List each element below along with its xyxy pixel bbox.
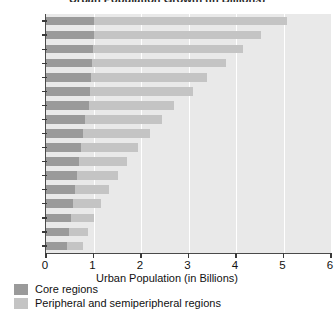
x-axis-tick [235, 253, 236, 258]
bar-row[interactable] [46, 31, 331, 40]
bar-segment-core [46, 129, 83, 138]
bar-segment-peripheral [81, 143, 138, 152]
bar-segment-core [46, 185, 75, 194]
x-axis-tick [93, 253, 94, 258]
bar-segment-core [46, 59, 92, 68]
bar-row[interactable] [46, 214, 331, 223]
bar-segment-core [46, 228, 69, 237]
y-axis-tick [42, 34, 47, 35]
x-axis-tick [45, 253, 46, 258]
bar-segment-peripheral [77, 171, 118, 180]
y-axis-tick [42, 175, 47, 176]
bar-segment-peripheral [91, 73, 208, 82]
bar-segment-core [46, 115, 85, 124]
x-axis-tick [283, 253, 284, 258]
x-axis-label: 1 [81, 259, 105, 271]
bar-segment-peripheral [67, 242, 83, 251]
bar-segment-peripheral [83, 129, 150, 138]
legend-label-core: Core regions [35, 283, 98, 295]
bar-segment-core [46, 17, 94, 26]
y-axis-tick [42, 63, 47, 64]
bar-row[interactable] [46, 17, 331, 26]
legend-swatch-peripheral-icon [14, 298, 28, 309]
bar-segment-peripheral [90, 87, 194, 96]
bar-segment-core [46, 242, 67, 251]
bar-row[interactable] [46, 101, 331, 110]
bar-segment-peripheral [69, 228, 88, 237]
bar-row[interactable] [46, 87, 331, 96]
bar-row[interactable] [46, 115, 331, 124]
x-axis-label: 0 [33, 259, 57, 271]
bar-segment-peripheral [79, 157, 127, 166]
legend: Core regions Peripheral and semiperipher… [14, 283, 334, 311]
gridline [331, 14, 332, 253]
bar-segment-peripheral [93, 45, 244, 54]
y-axis-tick [42, 105, 47, 106]
bar-segment-peripheral [92, 59, 226, 68]
y-axis-tick [42, 119, 47, 120]
legend-label-peripheral: Peripheral and semiperipheral regions [35, 297, 221, 309]
bar-segment-core [46, 199, 73, 208]
plot-area [45, 14, 331, 254]
x-axis-label: 6 [318, 259, 334, 271]
y-axis-tick [42, 189, 47, 190]
y-axis-tick [42, 91, 47, 92]
y-axis-tick [42, 49, 47, 50]
y-axis-tick [42, 77, 47, 78]
bar-row[interactable] [46, 228, 331, 237]
x-axis-label: 2 [128, 259, 152, 271]
bar-segment-peripheral [75, 185, 109, 194]
bar-row[interactable] [46, 73, 331, 82]
y-axis-tick [42, 133, 47, 134]
y-axis-tick [42, 20, 47, 21]
bar-segment-peripheral [85, 115, 162, 124]
x-axis-label: 4 [223, 259, 247, 271]
bar-row[interactable] [46, 185, 331, 194]
bar-segment-core [46, 101, 89, 110]
chart-title: Urban Population Growth (in Billions) [0, 0, 334, 2]
bar-row[interactable] [46, 59, 331, 68]
bar-segment-core [46, 31, 94, 40]
y-axis-tick [42, 203, 47, 204]
bar-segment-core [46, 87, 90, 96]
bar-rows [46, 14, 331, 253]
bar-segment-peripheral [94, 31, 262, 40]
bar-segment-core [46, 157, 79, 166]
y-axis-tick [42, 245, 47, 246]
legend-item-peripheral[interactable]: Peripheral and semiperipheral regions [14, 297, 334, 309]
y-axis-tick [42, 161, 47, 162]
bar-row[interactable] [46, 199, 331, 208]
bar-row[interactable] [46, 157, 331, 166]
bar-row[interactable] [46, 129, 331, 138]
bar-segment-core [46, 45, 93, 54]
legend-item-core[interactable]: Core regions [14, 283, 334, 295]
bar-segment-core [46, 171, 77, 180]
y-axis-tick [42, 147, 47, 148]
bar-segment-peripheral [89, 101, 175, 110]
y-axis-tick [42, 231, 47, 232]
bar-segment-core [46, 214, 71, 223]
x-axis-tick [140, 253, 141, 258]
bar-segment-peripheral [94, 17, 287, 26]
y-axis-tick [42, 217, 47, 218]
x-axis-label: 5 [271, 259, 295, 271]
bar-row[interactable] [46, 143, 331, 152]
bar-row[interactable] [46, 171, 331, 180]
bar-row[interactable] [46, 242, 331, 251]
x-axis-tick [330, 253, 331, 258]
legend-swatch-core-icon [14, 284, 28, 295]
bar-segment-peripheral [73, 199, 102, 208]
bar-segment-peripheral [71, 214, 94, 223]
bar-segment-core [46, 143, 81, 152]
x-axis-label: 3 [176, 259, 200, 271]
bar-segment-core [46, 73, 91, 82]
x-axis-tick [188, 253, 189, 258]
bar-row[interactable] [46, 45, 331, 54]
